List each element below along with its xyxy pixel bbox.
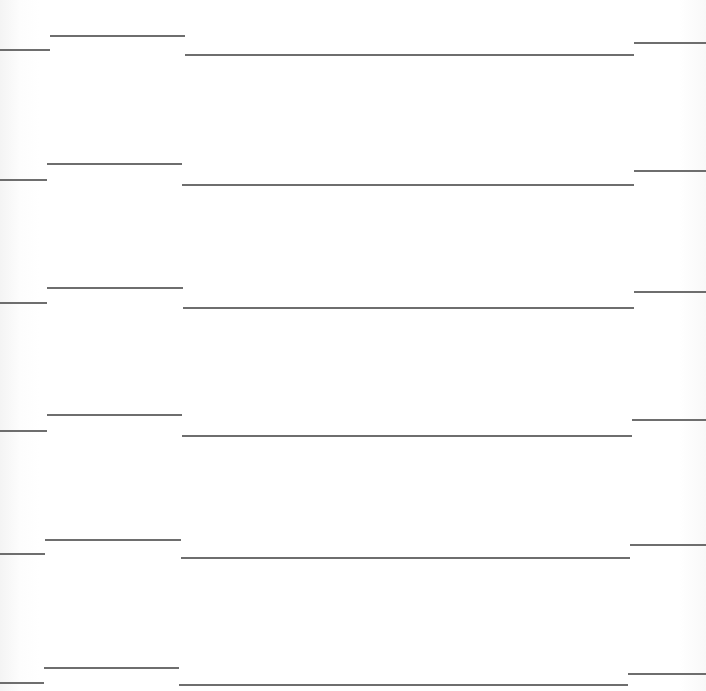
entry-line xyxy=(179,684,628,686)
label-line xyxy=(45,539,181,541)
lined-page xyxy=(0,0,706,691)
right-margin-line xyxy=(628,673,706,675)
label-line xyxy=(47,414,182,416)
entry-line xyxy=(182,435,632,437)
label-line xyxy=(47,287,183,289)
entry-line xyxy=(182,184,634,186)
left-margin-line xyxy=(0,682,44,684)
left-margin-line xyxy=(0,430,47,432)
label-line xyxy=(50,35,185,37)
right-margin-line xyxy=(632,419,706,421)
left-margin-line xyxy=(0,302,47,304)
left-margin-line xyxy=(0,49,50,51)
right-margin-line xyxy=(634,170,706,172)
label-line xyxy=(47,163,182,165)
entry-line xyxy=(183,307,634,309)
right-margin-line xyxy=(630,544,706,546)
entry-line xyxy=(185,54,634,56)
right-margin-line xyxy=(634,42,706,44)
label-line xyxy=(44,667,179,669)
left-margin-line xyxy=(0,553,45,555)
right-margin-line xyxy=(634,291,706,293)
left-margin-line xyxy=(0,179,47,181)
entry-line xyxy=(181,557,630,559)
